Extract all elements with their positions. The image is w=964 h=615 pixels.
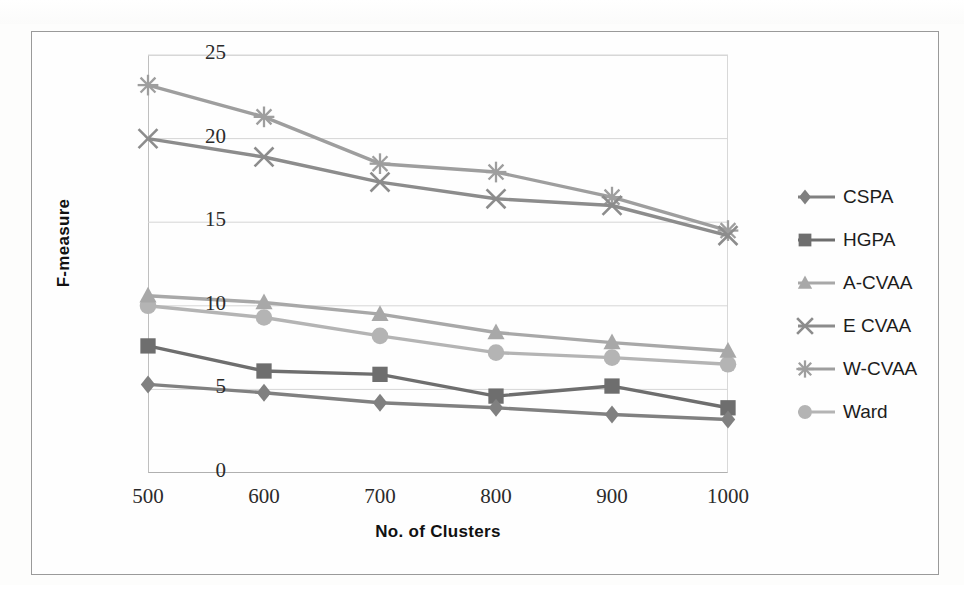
legend-item-label: W-CVAA xyxy=(839,358,917,380)
x-axis-tick-label: 800 xyxy=(456,484,536,509)
y-axis-tick-label: 0 xyxy=(184,458,226,483)
triangle-marker-icon xyxy=(795,271,839,295)
legend-item-hgpa[interactable]: HGPA xyxy=(795,218,950,261)
cross-marker-icon xyxy=(795,314,839,338)
chart-figure: F-measure No. of Clusters CSPAHGPAA-CVAA… xyxy=(0,0,964,615)
legend-item-label: HGPA xyxy=(839,229,895,251)
x-axis-tick-label: 600 xyxy=(224,484,304,509)
x-axis-title: No. of Clusters xyxy=(375,522,500,542)
diamond-marker-icon xyxy=(795,185,839,209)
legend-item-cspa[interactable]: CSPA xyxy=(795,175,950,218)
circle-marker-icon xyxy=(795,400,839,424)
x-axis-tick-label: 900 xyxy=(572,484,652,509)
y-axis-tick-label: 20 xyxy=(184,124,226,149)
star-marker-icon xyxy=(795,357,839,381)
legend-item-e-cvaa[interactable]: E CVAA xyxy=(795,304,950,347)
scan-margin-bottom xyxy=(0,585,964,615)
chart-legend: CSPAHGPAA-CVAAE CVAAW-CVAAWard xyxy=(795,175,950,433)
legend-item-label: A-CVAA xyxy=(839,272,912,294)
y-axis-tick-label: 25 xyxy=(184,40,226,65)
y-axis-title: F-measure xyxy=(54,199,74,288)
x-axis-tick-label: 500 xyxy=(108,484,188,509)
legend-item-a-cvaa[interactable]: A-CVAA xyxy=(795,261,950,304)
legend-item-label: E CVAA xyxy=(839,315,911,337)
scan-margin-top xyxy=(0,0,964,24)
x-axis-tick-label: 1000 xyxy=(688,484,768,509)
square-marker-icon xyxy=(795,228,839,252)
plot-area xyxy=(148,55,728,473)
legend-item-ward[interactable]: Ward xyxy=(795,390,950,433)
y-axis-tick-label: 5 xyxy=(184,374,226,399)
legend-item-label: Ward xyxy=(839,401,888,423)
legend-item-label: CSPA xyxy=(839,186,893,208)
x-axis-tick-label: 700 xyxy=(340,484,420,509)
legend-item-w-cvaa[interactable]: W-CVAA xyxy=(795,347,950,390)
y-axis-tick-label: 10 xyxy=(184,291,226,316)
y-axis-tick-label: 15 xyxy=(184,207,226,232)
